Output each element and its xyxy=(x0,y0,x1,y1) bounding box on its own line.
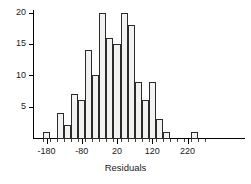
histogram-bar xyxy=(142,100,149,139)
histogram-bars xyxy=(0,0,251,184)
histogram-bar xyxy=(57,113,64,139)
histogram-bar xyxy=(135,82,142,139)
histogram-bar xyxy=(128,25,135,139)
histogram-bar xyxy=(85,50,92,139)
histogram-chart: 5101520 -180-8020120220 Residuals xyxy=(0,0,251,184)
histogram-bar xyxy=(92,75,99,139)
histogram-bar xyxy=(71,94,78,139)
histogram-bar xyxy=(121,13,128,139)
histogram-bar xyxy=(149,82,156,139)
histogram-bar xyxy=(64,125,71,139)
x-axis-title: Residuals xyxy=(0,162,251,173)
histogram-bar xyxy=(78,100,85,139)
histogram-bar xyxy=(106,38,113,139)
histogram-bar xyxy=(156,119,163,139)
histogram-bar xyxy=(113,44,120,139)
histogram-bar xyxy=(43,132,50,139)
histogram-bar xyxy=(191,132,198,139)
histogram-bar xyxy=(99,13,106,139)
histogram-bar xyxy=(163,132,170,139)
